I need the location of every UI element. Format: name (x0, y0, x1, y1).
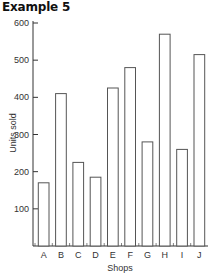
x-tick-label: A (41, 250, 47, 260)
bar-g (142, 142, 153, 246)
y-axis-label: Units sold (8, 108, 18, 158)
bar-e (108, 88, 119, 246)
x-tick-label: G (144, 250, 151, 260)
y-tick-label: 200 (14, 167, 29, 177)
x-tick-label: H (162, 250, 169, 260)
y-tick-label: 600 (14, 18, 29, 28)
y-tick-label: 500 (14, 55, 29, 65)
bar-a (38, 183, 49, 246)
bar-chart: 100200300400500600ABCDEFGHIJ (0, 0, 210, 276)
x-tick-label: E (110, 250, 116, 260)
y-tick-label: 400 (14, 92, 29, 102)
x-tick-label: F (127, 250, 133, 260)
x-tick-label: J (197, 250, 202, 260)
bar-h (159, 34, 170, 246)
x-tick-label: C (75, 250, 82, 260)
x-tick-label: I (181, 250, 184, 260)
bar-d (90, 177, 101, 246)
x-axis-label: Shops (0, 263, 210, 273)
y-tick-label: 100 (14, 204, 29, 214)
bar-i (177, 149, 188, 246)
x-tick-label: B (58, 250, 64, 260)
bar-b (56, 94, 67, 246)
bar-f (125, 68, 136, 246)
bar-j (194, 55, 205, 246)
bar-c (73, 162, 84, 246)
x-tick-label: D (92, 250, 99, 260)
